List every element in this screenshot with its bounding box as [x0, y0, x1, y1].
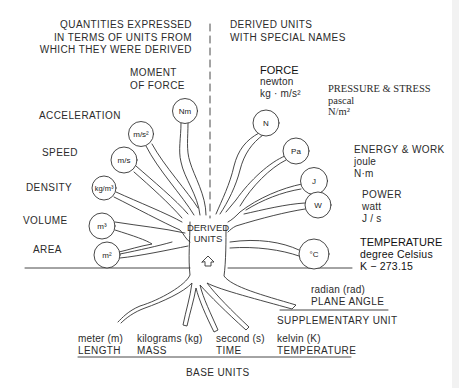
supplementary-unit-name: radian (rad): [311, 284, 384, 296]
supplementary-quantity: PLANE ANGLE: [311, 296, 384, 308]
label-volume: VOLUME: [23, 215, 68, 228]
base-units-section-label: BASE UNITS: [186, 367, 249, 380]
center-label: DERIVED UNITS: [183, 222, 233, 244]
header-right-line-2: WITH SPECIAL NAMES: [230, 32, 346, 45]
header-right-line-1: DERIVED UNITS: [230, 19, 346, 32]
bubble-label-volume: m³: [97, 222, 107, 231]
unit-energy-definition: N·m: [354, 168, 445, 180]
bubble-label-power: W: [314, 201, 322, 210]
unit-pressure: PRESSURE & STRESS pascal N/m²: [328, 83, 431, 118]
bubble-label-density: kg/m³: [95, 184, 114, 193]
base-unit-mass: kilograms (kg) MASS: [137, 333, 203, 357]
unit-temperature-name: degree Celsius: [360, 248, 442, 260]
unit-pressure-definition: N/m²: [328, 106, 431, 118]
bubble-label-nm: Nm: [179, 107, 192, 116]
label-moment-line-1: MOMENT: [130, 67, 185, 80]
unit-power-quantity: POWER: [362, 189, 402, 201]
base-unit-temperature-quantity: TEMPERATURE: [277, 345, 356, 357]
header-left-line-3: WHICH THEY WERE DERIVED: [40, 44, 192, 57]
up-arrow-icon: [202, 256, 214, 266]
unit-energy-name: joule: [354, 156, 445, 168]
label-density: DENSITY: [26, 182, 72, 195]
unit-temperature-definition: K − 273.15: [360, 260, 442, 272]
branch-acceleration: [146, 144, 198, 215]
base-unit-length-quantity: LENGTH: [78, 345, 123, 357]
unit-temperature-quantity: TEMPERATURE: [360, 236, 442, 248]
supplementary-unit: radian (rad) PLANE ANGLE: [311, 284, 384, 308]
unit-pressure-name: pascal: [328, 95, 431, 107]
branch-area: [120, 242, 188, 258]
base-unit-mass-quantity: MASS: [137, 345, 203, 357]
base-unit-time-quantity: TIME: [216, 345, 265, 357]
unit-power: POWER watt J / s: [362, 189, 402, 225]
base-unit-length-unit: meter (m): [78, 333, 123, 345]
base-unit-time: second (s) TIME: [216, 333, 265, 357]
label-area: AREA: [33, 244, 62, 257]
branch-density: [114, 192, 190, 242]
label-moment-of-force: MOMENT OF FORCE: [130, 67, 185, 92]
center-label-line-1: DERIVED: [183, 222, 233, 233]
branch-temperature: [230, 240, 299, 256]
base-unit-temperature: kelvin (K) TEMPERATURE: [277, 333, 356, 357]
bubble-label-energy: J: [312, 177, 316, 186]
bubble-label-pressure: Pa: [291, 147, 301, 156]
supplementary-section-label: SUPPLEMENTARY UNIT: [277, 315, 398, 328]
base-unit-length: meter (m) LENGTH: [78, 333, 123, 357]
header-left-line-2: IN TERMS OF UNITS FROM: [40, 32, 192, 45]
branch-speed: [134, 166, 188, 218]
bubble-label-area: m²: [102, 251, 112, 260]
branch-power: [228, 203, 305, 232]
bubble-label-temperature: °C: [310, 250, 319, 259]
unit-energy: ENERGY & WORK joule N·m: [354, 144, 445, 180]
label-acceleration: ACCELERATION: [39, 110, 121, 123]
base-unit-mass-unit: kilograms (kg): [137, 333, 203, 345]
header-left-line-1: QUANTITIES EXPRESSED: [40, 19, 192, 32]
bubble-label-speed: m/s: [118, 156, 131, 165]
base-unit-time-unit: second (s): [216, 333, 265, 345]
unit-temperature: TEMPERATURE degree Celsius K − 273.15: [360, 236, 442, 272]
unit-power-name: watt: [362, 201, 402, 213]
unit-pressure-quantity: PRESSURE & STRESS: [328, 83, 431, 95]
unit-force-quantity: FORCE: [260, 64, 301, 76]
label-speed: SPEED: [42, 147, 78, 160]
header-left: QUANTITIES EXPRESSED IN TERMS OF UNITS F…: [40, 19, 192, 57]
branch-energy: [228, 184, 302, 222]
center-label-line-2: UNITS: [183, 233, 233, 244]
unit-force-definition: kg · m/s²: [260, 88, 301, 100]
unit-power-definition: J / s: [362, 213, 402, 225]
unit-energy-quantity: ENERGY & WORK: [354, 144, 445, 156]
label-moment-line-2: OF FORCE: [130, 80, 185, 93]
bubble-label-force: N: [263, 119, 269, 128]
header-right: DERIVED UNITS WITH SPECIAL NAMES: [230, 19, 346, 44]
base-unit-temperature-unit: kelvin (K): [277, 333, 356, 345]
unit-force-name: newton: [260, 76, 301, 88]
unit-force: FORCE newton kg · m/s²: [260, 64, 301, 100]
branch-pressure: [226, 156, 286, 212]
bubble-label-acceleration: m/s²: [133, 130, 149, 139]
